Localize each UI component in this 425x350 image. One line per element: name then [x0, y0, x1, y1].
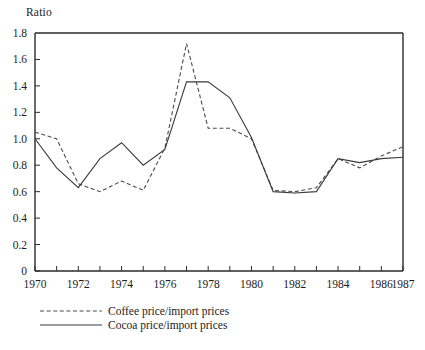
y-tick-label: 0.2	[13, 239, 28, 251]
x-tick-label: 1972	[67, 278, 90, 290]
series-layer	[35, 44, 403, 193]
y-tick-label: 0.8	[13, 159, 28, 171]
legend-label-coffee: Coffee price/import prices	[108, 305, 230, 318]
x-tick-label: 1970	[24, 278, 47, 290]
x-axis-ticks: 1970197219741976197819801982198419861987	[24, 266, 415, 290]
x-tick-label: 1982	[283, 278, 306, 290]
x-tick-label: 1978	[197, 278, 220, 290]
x-tick-label: 1974	[110, 278, 133, 290]
y-tick-label: 0.4	[13, 212, 28, 224]
y-tick-label: 1.0	[13, 133, 28, 145]
y-tick-label: 1.4	[13, 80, 28, 92]
x-tick-label: 1984	[327, 278, 350, 290]
chart-page: Ratio 00.20.40.60.81.01.21.41.61.8 19701…	[0, 0, 425, 350]
y-axis-ticks: 00.20.40.60.81.01.21.41.61.8	[13, 27, 40, 277]
chart-legend: Coffee price/import pricesCocoa price/im…	[40, 305, 230, 332]
x-tick-label: 1987	[392, 278, 415, 290]
y-tick-label: 1.2	[13, 106, 28, 118]
series-line-cocoa	[35, 82, 403, 193]
y-tick-label: 0.6	[13, 186, 28, 198]
line-chart: 00.20.40.60.81.01.21.41.61.8 19701972197…	[0, 0, 425, 350]
y-tick-label: 1.6	[13, 53, 28, 65]
series-line-coffee	[35, 44, 403, 192]
y-tick-label: 0	[21, 265, 27, 277]
axis-frame	[35, 33, 403, 271]
x-tick-label: 1980	[240, 278, 263, 290]
x-tick-label: 1986	[370, 278, 393, 290]
legend-label-cocoa: Cocoa price/import prices	[108, 319, 228, 332]
y-tick-label: 1.8	[13, 27, 28, 39]
x-tick-label: 1976	[153, 278, 176, 290]
